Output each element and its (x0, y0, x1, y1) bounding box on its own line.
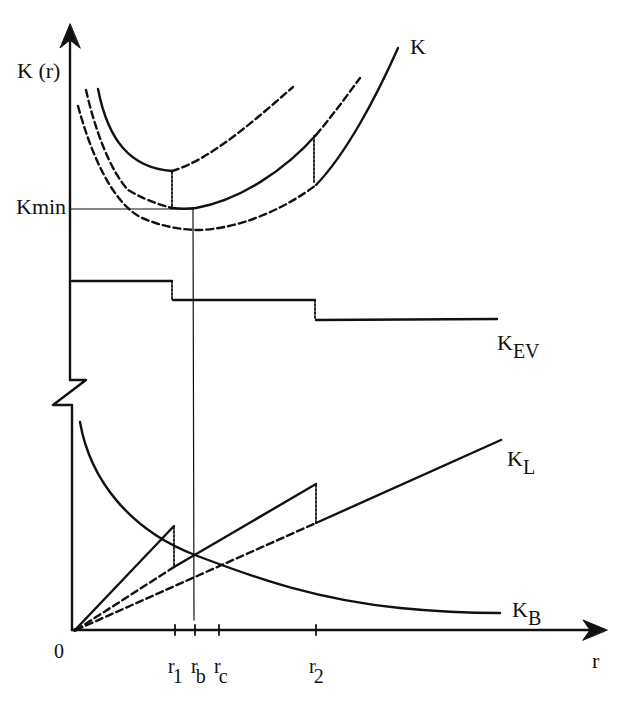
k-curve-main-solid (172, 135, 316, 209)
k-curve-upper-dashed-right (316, 78, 360, 135)
curve-label-kb-main: K (512, 597, 528, 622)
kl-segment-3 (316, 440, 501, 523)
rb-reference-line (193, 209, 194, 620)
curve-label-kl-main: K (507, 446, 523, 471)
curve-label-k: K (410, 36, 426, 58)
origin-label: 0 (54, 641, 64, 661)
tick-label-rc: rc (214, 656, 230, 676)
curve-label-kev-main: K (497, 330, 513, 355)
kl-dashed-2 (76, 523, 316, 630)
tick-label-r1: r1 (168, 656, 185, 676)
curve-label-kl-sub: L (523, 456, 535, 478)
kev-step-3 (316, 319, 497, 320)
y-axis-label: K (r) (17, 60, 60, 82)
k-curve-upper-dashed (172, 87, 293, 171)
curve-label-kl: KL (507, 448, 535, 470)
k-curve-middle-dashed (86, 90, 172, 208)
kmin-label: Kmin (16, 196, 66, 218)
kl-segment-1 (75, 526, 174, 630)
tick-label-r2: r2 (309, 656, 326, 676)
curve-label-kev: KEV (497, 332, 540, 354)
curve-label-kb: KB (512, 599, 541, 621)
curve-label-kev-sub: EV (513, 340, 540, 362)
k-curve-right-solid (316, 48, 398, 185)
tick-label-rb: rb (191, 656, 208, 676)
kb-curve (80, 422, 500, 613)
y-axis-break (53, 380, 86, 630)
x-axis-label: r (592, 650, 599, 672)
origin-point (73, 628, 77, 632)
curve-label-kb-sub: B (528, 607, 541, 629)
curve-label-k-main: K (410, 34, 426, 59)
